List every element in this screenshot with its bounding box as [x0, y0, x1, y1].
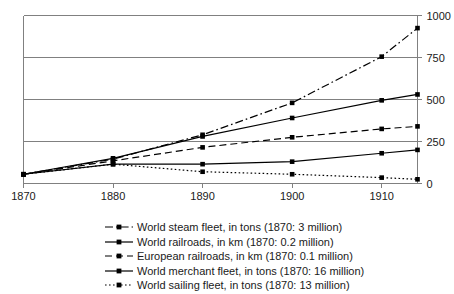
series-2-point-1900: [290, 135, 295, 140]
series-line-0: [24, 28, 418, 174]
series-0-point-1914: [415, 26, 420, 31]
series-4-point-1910: [379, 175, 384, 180]
x-axis-tick-labels: 18701880189019001910: [11, 190, 394, 202]
chart-legend: World steam fleet, in tons (1870: 3 mill…: [104, 220, 404, 293]
series-4-point-1900: [290, 172, 295, 177]
series-4-point-1880: [111, 162, 116, 167]
series-1-point-1890: [200, 134, 205, 139]
legend-line-swatch-3: [104, 265, 134, 277]
legend-item-label: European railroads, in km (1870: 0.1 mil…: [137, 250, 353, 262]
x-tick-label-1910: 1910: [369, 190, 393, 202]
series-2-point-1890: [200, 145, 205, 150]
legend-item: World steam fleet, in tons (1870: 3 mill…: [104, 220, 404, 235]
series-3-point-1910: [379, 151, 384, 156]
series-line-1: [24, 94, 418, 174]
x-tick-label-1890: 1890: [190, 190, 214, 202]
series-0-point-1910: [379, 54, 384, 59]
legend-line-swatch-4: [104, 279, 134, 291]
chart-plot-area: 18701880189019001910 02505007501000: [0, 0, 454, 210]
y-axis-tick-labels: 02505007501000: [427, 10, 451, 190]
data-series-layer: [21, 26, 420, 182]
legend-item: European railroads, in km (1870: 0.1 mil…: [104, 249, 404, 264]
y-tick-label-0: 0: [427, 178, 433, 190]
series-3-point-1890: [200, 162, 205, 167]
series-line-3: [24, 150, 418, 174]
series-0-point-1900: [290, 101, 295, 106]
legend-item-label: World railroads, in km (1870: 0.2 millio…: [137, 236, 334, 248]
legend-item-label: World steam fleet, in tons (1870: 3 mill…: [137, 221, 342, 233]
series-2-point-1910: [379, 127, 384, 132]
legend-line-swatch-1: [104, 236, 134, 248]
series-1-point-1914: [415, 92, 420, 97]
y-tick-label-1000: 1000: [427, 10, 451, 22]
x-tick-label-1880: 1880: [101, 190, 125, 202]
line-chart-figure: 18701880189019001910 02505007501000 Worl…: [0, 0, 454, 294]
series-line-4: [24, 164, 418, 179]
y-tick-label-500: 500: [427, 94, 445, 106]
legend-item-label: World merchant fleet, in tons (1870: 16 …: [137, 265, 364, 277]
x-tick-label-1870: 1870: [11, 190, 35, 202]
series-3-point-1900: [290, 159, 295, 164]
axis-ticks: [24, 16, 422, 188]
legend-item: World railroads, in km (1870: 0.2 millio…: [104, 235, 404, 250]
series-2-point-1914: [415, 124, 420, 129]
series-4-point-1914: [415, 177, 420, 182]
series-4-point-1890: [200, 169, 205, 174]
legend-item: World sailing fleet, in tons (1870: 13 m…: [104, 278, 404, 293]
series-1-point-1910: [379, 98, 384, 103]
series-4-point-1870: [21, 172, 26, 177]
y-tick-label-250: 250: [427, 136, 445, 148]
legend-item: World merchant fleet, in tons (1870: 16 …: [104, 264, 404, 279]
legend-line-swatch-2: [104, 250, 134, 262]
gridlines: [24, 58, 418, 142]
y-tick-label-750: 750: [427, 52, 445, 64]
legend-item-label: World sailing fleet, in tons (1870: 13 m…: [137, 279, 350, 291]
series-1-point-1900: [290, 116, 295, 121]
legend-line-swatch-0: [104, 221, 134, 233]
series-3-point-1914: [415, 148, 420, 153]
x-tick-label-1900: 1900: [280, 190, 304, 202]
